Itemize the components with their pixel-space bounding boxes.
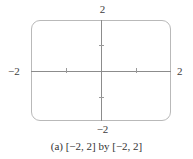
- y-axis-min-label: −2: [0, 123, 193, 135]
- y-axis-max-label: 2: [0, 3, 193, 15]
- y-axis-tick-negative-one: [99, 97, 104, 98]
- x-axis-min-label: −2: [8, 65, 20, 77]
- x-axis-tick-negative-one: [66, 68, 67, 73]
- x-axis-max-label: 2: [177, 65, 183, 77]
- viewing-window-figure: 2 −2 −2 2 (a) [−2, 2] by [−2, 2]: [0, 0, 193, 159]
- x-axis-tick-positive-one: [136, 68, 137, 73]
- figure-caption: (a) [−2, 2] by [−2, 2]: [0, 140, 193, 153]
- y-axis-tick-positive-one: [99, 45, 104, 46]
- y-axis: [101, 20, 102, 121]
